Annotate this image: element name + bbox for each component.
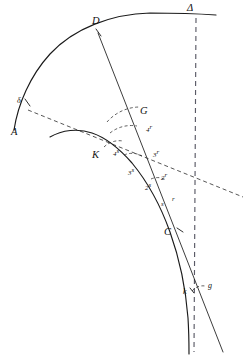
angle-arc-G-outer-icon [107,107,139,122]
label-k: k [183,287,187,296]
main-refracted-curve-icon [50,130,189,354]
tick-k-icon [190,288,194,293]
label-G: G [140,105,148,116]
angle-arc-G-inner-icon [110,126,137,133]
tick-delta-icon [25,99,30,106]
label-r-italic: r [172,195,175,202]
label-D: D [91,15,100,26]
chord-D-G-icon [98,33,223,352]
label-K: K [91,149,100,160]
upper-circular-arc-icon [14,13,216,130]
label-A: A [10,126,18,137]
label-Delta-upper: Δ [186,2,193,13]
geometry-diagram: Δ D δ A G K C k g s r 4r 4s 3r 3s 2r 2s [0,0,243,358]
label-3s: 3s [127,166,134,176]
tick-C-icon [177,228,183,232]
label-g: g [208,281,212,290]
label-3r: 3r [152,148,159,158]
label-4r: 4r [146,123,152,133]
label-s-italic: s [161,200,164,207]
label-4s: 4s [113,147,119,157]
label-2r: 2r [161,171,167,181]
label-delta-lower: δ [17,96,21,105]
figure-root: Δ D δ A G K C k g s r 4r 4s 3r 3s 2r 2s [0,0,243,358]
vertical-dashed-axis-icon [194,18,196,352]
label-C: C [164,226,172,237]
